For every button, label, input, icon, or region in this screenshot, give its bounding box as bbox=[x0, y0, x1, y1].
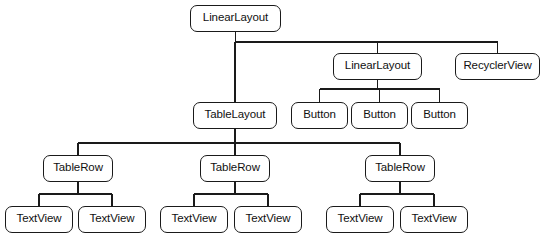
node-textview-6[interactable]: TextView bbox=[400, 206, 468, 233]
node-linearlayout-2[interactable]: LinearLayout bbox=[333, 53, 422, 80]
node-textview-5[interactable]: TextView bbox=[326, 206, 394, 233]
node-label: TextView bbox=[89, 213, 134, 226]
node-label: TextView bbox=[171, 213, 216, 226]
node-label: Button bbox=[423, 109, 456, 122]
node-label: TextView bbox=[411, 213, 456, 226]
node-label: TableRow bbox=[53, 162, 103, 175]
node-tablerow-1[interactable]: TableRow bbox=[43, 155, 113, 182]
node-tablerow-3[interactable]: TableRow bbox=[365, 155, 435, 182]
node-label: TextView bbox=[245, 213, 290, 226]
node-textview-2[interactable]: TextView bbox=[78, 206, 146, 233]
node-label: Button bbox=[303, 109, 336, 122]
node-button-2[interactable]: Button bbox=[351, 102, 408, 129]
node-textview-1[interactable]: TextView bbox=[5, 206, 73, 233]
node-label: TableRow bbox=[375, 162, 425, 175]
node-label: TextView bbox=[16, 213, 61, 226]
node-recyclerview[interactable]: RecyclerView bbox=[455, 53, 540, 80]
node-label: RecyclerView bbox=[463, 60, 531, 73]
node-textview-4[interactable]: TextView bbox=[234, 206, 302, 233]
node-label: LinearLayout bbox=[345, 60, 410, 73]
node-root-linearlayout[interactable]: LinearLayout bbox=[190, 5, 281, 32]
node-tablelayout[interactable]: TableLayout bbox=[193, 102, 277, 129]
view-hierarchy-diagram: LinearLayoutLinearLayoutRecyclerViewTabl… bbox=[0, 0, 542, 243]
node-button-3[interactable]: Button bbox=[411, 102, 468, 129]
node-label: TableLayout bbox=[205, 109, 266, 122]
node-label: TextView bbox=[337, 213, 382, 226]
node-textview-3[interactable]: TextView bbox=[160, 206, 228, 233]
node-tablerow-2[interactable]: TableRow bbox=[200, 155, 270, 182]
node-label: LinearLayout bbox=[203, 12, 268, 25]
node-label: Button bbox=[363, 109, 396, 122]
node-button-1[interactable]: Button bbox=[291, 102, 348, 129]
node-label: TableRow bbox=[210, 162, 260, 175]
